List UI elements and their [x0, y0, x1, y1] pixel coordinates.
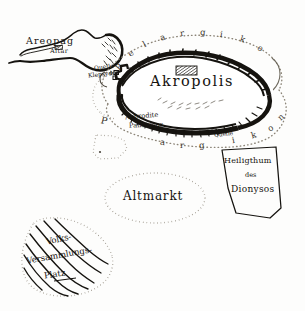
- pelargikon-letter: g: [200, 27, 206, 37]
- small-enclosure-polygon: [93, 135, 127, 159]
- pelargikon-letter: a: [159, 137, 165, 147]
- label-areopag-altar: Altar: [50, 48, 68, 55]
- enclosure-dot: [99, 151, 101, 153]
- pelargikon-east-notch: [272, 58, 280, 90]
- label-areopag: Areopag: [26, 36, 74, 46]
- label-heiligthum-des: des: [245, 172, 256, 179]
- label-heiligthum: Heiligthum: [224, 157, 272, 165]
- label-dionysos: Dionysos: [231, 185, 274, 194]
- label-akropolis: Akropolis: [150, 74, 234, 89]
- pelargikon-letter: g: [199, 140, 205, 150]
- label-altmarkt: Altmarkt: [123, 190, 183, 203]
- acropolis-map: P e l a r g i k o P a r g i k o n Areopa…: [0, 0, 305, 311]
- pelargikon-letter: r: [180, 140, 184, 150]
- label-aphrodite-line2: Pandemos: [129, 121, 163, 129]
